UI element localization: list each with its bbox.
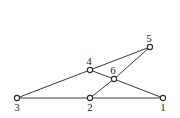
graph-diagram: 123456 <box>0 0 180 118</box>
node-label-1: 1 <box>160 101 166 113</box>
node-1 <box>160 95 165 100</box>
node-label-2: 2 <box>87 101 93 113</box>
edge-6-5 <box>114 47 150 79</box>
edge-4-5 <box>90 47 150 70</box>
node-4 <box>87 67 92 72</box>
node-5 <box>147 44 152 49</box>
node-2 <box>87 95 92 100</box>
edge-3-4 <box>17 70 90 98</box>
node-label-5: 5 <box>146 32 152 44</box>
node-3 <box>14 95 19 100</box>
edge-6-2 <box>90 79 114 98</box>
node-6 <box>111 76 116 81</box>
node-label-4: 4 <box>86 55 92 67</box>
node-label-3: 3 <box>14 101 20 113</box>
edge-6-1 <box>114 79 163 98</box>
node-label-6: 6 <box>110 64 116 76</box>
